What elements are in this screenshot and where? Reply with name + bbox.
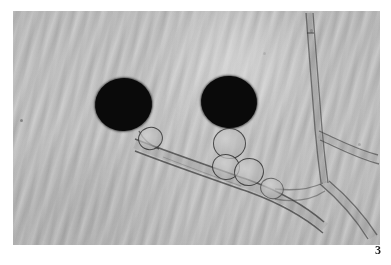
debris-speck-right — [358, 143, 361, 146]
figure-number-label: 3 — [375, 244, 381, 256]
figure-root: 3 — [0, 0, 391, 265]
hypha-right-branch-upper — [319, 135, 377, 159]
debris-speck-left — [20, 119, 23, 122]
micrograph-image — [13, 11, 380, 245]
debris-speck-top — [310, 29, 313, 33]
hypha-right-branch-lower — [324, 183, 373, 237]
hypha-vertical-top — [309, 13, 324, 183]
debris-speck-mid — [263, 52, 266, 55]
hyphae-overlay — [13, 11, 380, 245]
